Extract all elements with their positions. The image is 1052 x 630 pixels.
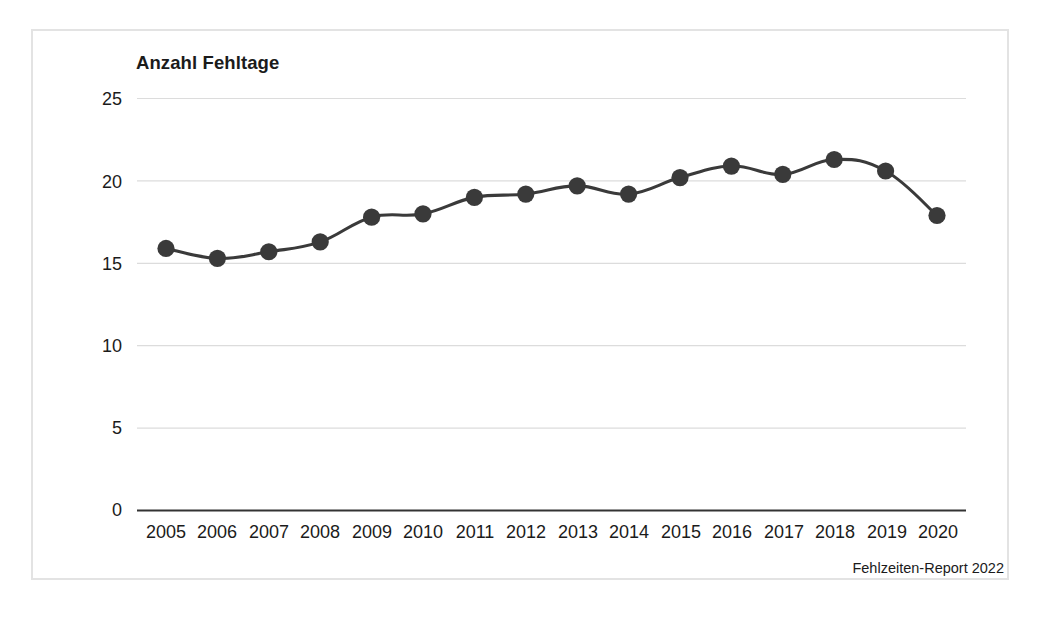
data-point-2016: [723, 157, 740, 174]
data-point-2013: [569, 177, 586, 194]
data-point-2019: [877, 162, 894, 179]
chart-plot-area: [0, 0, 1052, 630]
data-point-2010: [414, 205, 431, 222]
data-point-2014: [620, 185, 637, 202]
source-note: Fehlzeiten-Report 2022: [852, 560, 1004, 576]
data-point-2012: [517, 185, 534, 202]
data-point-2006: [209, 250, 226, 267]
data-point-2009: [363, 209, 380, 226]
data-point-2007: [260, 243, 277, 260]
gridlines: [137, 99, 966, 429]
data-point-2015: [671, 169, 688, 186]
data-point-2017: [774, 166, 791, 183]
data-point-2011: [466, 189, 483, 206]
series-line-anzahl-fehltage: [166, 159, 937, 258]
data-point-2018: [826, 151, 843, 168]
data-point-2008: [312, 233, 329, 250]
data-point-2005: [157, 240, 174, 257]
chart-figure: Anzahl Fehltage 25 20 15 10 5 0 2005 200…: [0, 0, 1052, 630]
series-markers: [157, 151, 945, 267]
data-point-2020: [928, 207, 945, 224]
